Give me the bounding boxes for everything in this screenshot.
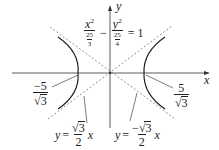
- negative-asymptote-label: y = −√3 2 x: [115, 121, 160, 148]
- positive-asymptote-label: y = √3 2 x: [55, 121, 93, 148]
- equation-term-x: x2 25 3: [84, 18, 95, 48]
- leader-left-vertex: [52, 75, 78, 87]
- leader-positive-asymptote: [84, 96, 87, 123]
- equation-equals: =: [128, 27, 135, 39]
- equation-minus: −: [100, 27, 107, 39]
- left-vertex-label: −5 √3: [33, 80, 48, 107]
- equation-rhs: 1: [138, 27, 144, 39]
- y-axis-label: y: [116, 0, 121, 12]
- right-vertex-label: 5 √3: [174, 82, 189, 109]
- origin-point: [109, 72, 111, 74]
- hyperbola-equation: x2 25 3 − y2 25 4 = 1: [84, 18, 144, 48]
- y-axis-arrow-icon: [108, 5, 112, 11]
- equation-term-y: y2 25 4: [112, 18, 123, 48]
- leader-right-vertex: [146, 75, 173, 88]
- x-axis-label: x: [204, 74, 209, 86]
- leader-negative-asymptote: [130, 93, 137, 121]
